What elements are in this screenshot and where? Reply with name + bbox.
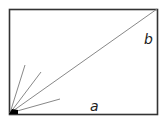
- ray-line-2: [10, 72, 41, 113]
- diagonal-line: [10, 9, 157, 113]
- label-b: b: [144, 31, 153, 47]
- label-a: a: [90, 98, 99, 114]
- ray-line-1: [10, 65, 25, 113]
- rectangle-diagram: a b: [0, 0, 168, 121]
- outer-rectangle: [10, 10, 158, 115]
